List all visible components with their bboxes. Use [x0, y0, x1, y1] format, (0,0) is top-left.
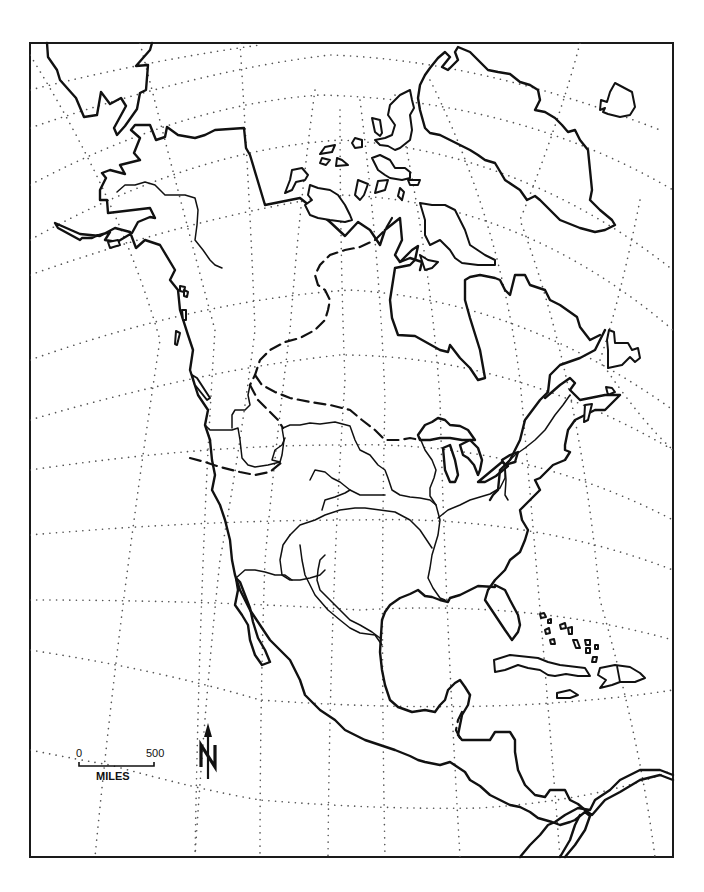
arctic-island [352, 138, 362, 148]
bahamas-island [568, 627, 572, 634]
bahamas-island [550, 639, 555, 644]
map-container: 0 500 MILES [0, 0, 704, 892]
bahamas-island [595, 645, 598, 649]
coastal-island [184, 290, 188, 297]
bahamas-island [592, 657, 597, 662]
north-america-map: 0 500 MILES [0, 0, 704, 892]
scale-unit-label: MILES [96, 770, 130, 782]
coastal-island [182, 310, 186, 320]
scale-start-label: 0 [76, 747, 82, 759]
arctic-island [398, 188, 404, 200]
bahamas-island [585, 640, 590, 645]
map-frame [30, 43, 673, 857]
bahamas-island [545, 628, 550, 634]
bahamas-island [560, 623, 566, 629]
bahamas-island [548, 619, 551, 623]
bahamas-island [540, 613, 546, 618]
arctic-island [408, 180, 420, 185]
bahamas-island [586, 648, 590, 653]
scale-end-label: 500 [146, 747, 164, 759]
